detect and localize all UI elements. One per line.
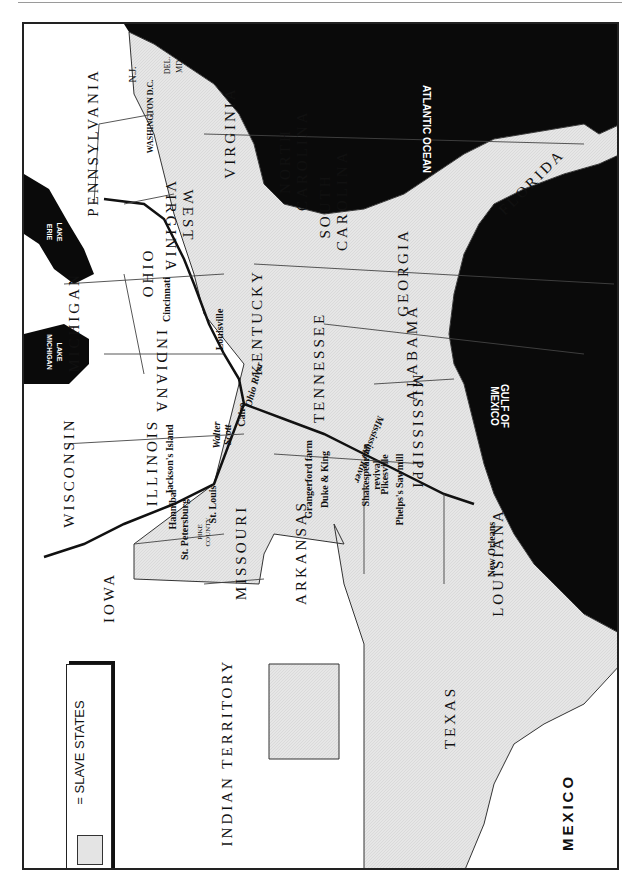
gulf-of-mexico-label: GULF OF MEXICO bbox=[489, 371, 509, 441]
washington-dc-label: WASHINGTON D.C. bbox=[146, 80, 155, 153]
pennsylvania-label: PENNSYLVANIA bbox=[85, 68, 102, 217]
duke-king-label: Duke & King bbox=[319, 451, 330, 508]
md-label: MD. bbox=[175, 58, 184, 73]
ohio-label: OHIO bbox=[140, 248, 157, 298]
nj-label: N.J. bbox=[127, 66, 138, 82]
virginia-label: VIRGINIA bbox=[222, 86, 239, 178]
kentucky-label: KENTUCKY bbox=[249, 269, 266, 376]
louisville-label: Louisville bbox=[214, 309, 225, 351]
cairo-label: Cairo bbox=[236, 402, 247, 426]
indiana-label: INDIANA bbox=[153, 330, 170, 415]
jacksons-island-label: Jackson's Island bbox=[164, 424, 175, 494]
st-petersburg-label: St. Petersburg bbox=[179, 499, 190, 560]
wisconsin-label: WISCONSIN bbox=[61, 417, 78, 527]
st-louis-label: St. Louis bbox=[207, 486, 218, 524]
lake-erie-label: LAKE ERIE bbox=[44, 217, 64, 247]
cincinnati-label: Cincinnati bbox=[161, 277, 172, 322]
iowa-label: IOWA bbox=[101, 572, 118, 623]
mexico-label: MEXICO bbox=[559, 774, 576, 851]
tennessee-label: TENNESSEE bbox=[311, 312, 328, 423]
michigan-label: MICHIGAN bbox=[66, 272, 83, 373]
missouri-label: MISSOURI bbox=[233, 505, 250, 601]
new-orleans-label: New Orleans bbox=[486, 522, 497, 577]
legend-label: = SLAVE STATES bbox=[72, 700, 87, 804]
north-carolina-label: NORTH CAROLINA bbox=[277, 111, 311, 211]
west-virginia-label: WEST VIRGINIA bbox=[162, 181, 196, 251]
illinois-label: ILLINOIS bbox=[144, 419, 161, 506]
lake-michigan-label: LAKE MICHIGAN bbox=[44, 332, 64, 372]
south-carolina-label: SOUTH CAROLINA bbox=[317, 161, 351, 251]
page-rule bbox=[18, 2, 622, 3]
map-frame: ATLANTIC OCEAN GULF OF MEXICO LAKE ERIE … bbox=[22, 22, 619, 870]
legend: = SLAVE STATES bbox=[66, 664, 112, 870]
del-label: DEL. bbox=[163, 57, 172, 75]
texas-panhandle bbox=[269, 664, 339, 759]
indian-territory-label: INDIAN TERRITORY bbox=[219, 659, 236, 847]
texas-label: TEXAS bbox=[442, 686, 459, 749]
hannibal-label: Hannibal bbox=[167, 489, 178, 529]
grangerford-farm-label: Grangerford farm bbox=[303, 440, 314, 519]
phelps-sawmill-label: Phelps's Sawmill bbox=[394, 454, 405, 526]
walter-scott-label: Walter Scott bbox=[211, 415, 233, 455]
atlantic-ocean-label: ATLANTIC OCEAN bbox=[421, 85, 431, 173]
map-canvas bbox=[24, 24, 619, 870]
pikesville-label: Pikesville bbox=[379, 454, 390, 495]
slave-state-swatch bbox=[77, 835, 103, 865]
mississippi-label: MISSISSIPPI bbox=[409, 374, 426, 490]
